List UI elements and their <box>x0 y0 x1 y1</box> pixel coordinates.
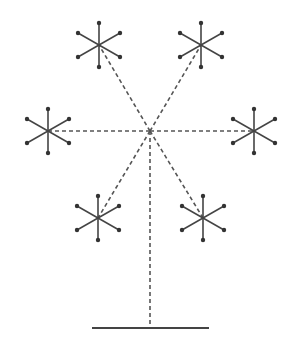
spoke-endpoint <box>67 117 71 121</box>
spoke-endpoint <box>76 31 80 35</box>
connector-bottom-left <box>98 131 150 218</box>
star-node-bottom-right-icon <box>180 194 226 242</box>
spoke-endpoint <box>231 141 235 145</box>
spoke-endpoint <box>252 107 256 111</box>
spoke-endpoint <box>75 204 79 208</box>
spoke-endpoint <box>222 204 226 208</box>
connector-top-right <box>150 45 201 131</box>
spoke-endpoint <box>118 55 122 59</box>
connector-bottom-right <box>150 131 203 218</box>
star-node-bottom-left-icon <box>75 194 121 242</box>
spoke-endpoint <box>46 151 50 155</box>
spoke-endpoint <box>220 55 224 59</box>
spoke-endpoint <box>273 117 277 121</box>
spoke-endpoint <box>220 31 224 35</box>
spoke-endpoint <box>97 21 101 25</box>
spoke-endpoint <box>222 228 226 232</box>
spoke-endpoint <box>118 31 122 35</box>
spoke-endpoint <box>117 204 121 208</box>
spoke-endpoint <box>46 107 50 111</box>
spoke-endpoint <box>178 31 182 35</box>
spoke-endpoint <box>67 141 71 145</box>
spoke-endpoint <box>199 65 203 69</box>
star-node-top-right-icon <box>178 21 224 69</box>
spoke-endpoint <box>96 238 100 242</box>
spoke-endpoint <box>231 117 235 121</box>
spoke-endpoint <box>75 228 79 232</box>
spoke-endpoint <box>273 141 277 145</box>
connector-top-left <box>99 45 150 131</box>
spoke-endpoint <box>180 228 184 232</box>
spoke-endpoint <box>76 55 80 59</box>
star-node-top-left-icon <box>76 21 122 69</box>
dashed-connectors <box>48 45 254 218</box>
spoke-endpoint <box>117 228 121 232</box>
spoke-endpoint <box>178 55 182 59</box>
star-tree-diagram <box>0 0 293 347</box>
spoke-endpoint <box>97 65 101 69</box>
spoke-endpoint <box>25 117 29 121</box>
spoke-endpoint <box>201 194 205 198</box>
spoke-endpoint <box>96 194 100 198</box>
spoke-endpoint <box>199 21 203 25</box>
spoke-endpoint <box>252 151 256 155</box>
spoke-endpoint <box>201 238 205 242</box>
spoke-endpoint <box>180 204 184 208</box>
spoke-endpoint <box>25 141 29 145</box>
